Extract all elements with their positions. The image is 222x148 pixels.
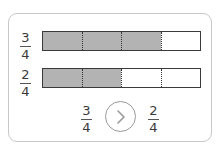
bar-segment-empty	[161, 32, 201, 50]
row2-fraction: 2 4	[20, 68, 31, 98]
comparison-left-fraction: 3 4	[81, 104, 92, 134]
bar-segment-shaded	[43, 69, 82, 87]
bar-segment-shaded	[82, 69, 122, 87]
bar-segment-shaded	[121, 32, 161, 50]
bar-segment-shaded	[82, 32, 122, 50]
left-denominator: 4	[82, 121, 90, 134]
row1-numerator: 3	[21, 31, 29, 44]
bar-segment-empty	[121, 69, 161, 87]
row1-fraction-bar	[42, 31, 201, 51]
right-denominator: 4	[149, 121, 157, 134]
row2-denominator: 4	[21, 85, 29, 98]
greater-than-icon	[116, 110, 126, 124]
bar-segment-empty	[161, 69, 201, 87]
comparison-right-fraction: 2 4	[148, 104, 159, 134]
row2-numerator: 2	[21, 68, 29, 81]
right-numerator: 2	[149, 104, 157, 117]
row2-fraction-bar	[42, 68, 201, 88]
comparison-symbol-circle[interactable]	[105, 101, 136, 132]
bar-segment-shaded	[43, 32, 82, 50]
row1-denominator: 4	[21, 48, 29, 61]
left-numerator: 3	[82, 104, 90, 117]
row1-fraction: 3 4	[20, 31, 31, 61]
